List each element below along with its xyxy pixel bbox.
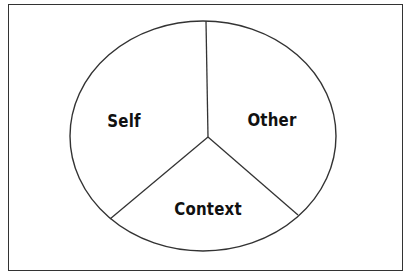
three-part-circle-diagram	[0, 0, 412, 278]
segment-label-self: Self	[107, 111, 140, 132]
segment-label-context: Context	[174, 199, 242, 220]
segment-label-other: Other	[247, 110, 296, 131]
